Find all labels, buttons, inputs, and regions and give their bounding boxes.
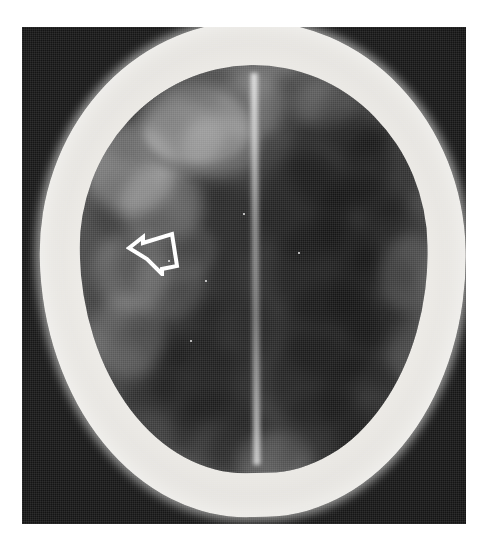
film-speck	[190, 340, 192, 342]
ct-background-plate	[22, 27, 466, 524]
ct-image-viewer	[0, 0, 491, 537]
open-arrow-icon	[126, 228, 182, 276]
open-arrow-marker	[126, 228, 182, 276]
film-speck	[205, 280, 207, 282]
film-speck	[298, 252, 300, 254]
film-speck	[243, 213, 245, 215]
